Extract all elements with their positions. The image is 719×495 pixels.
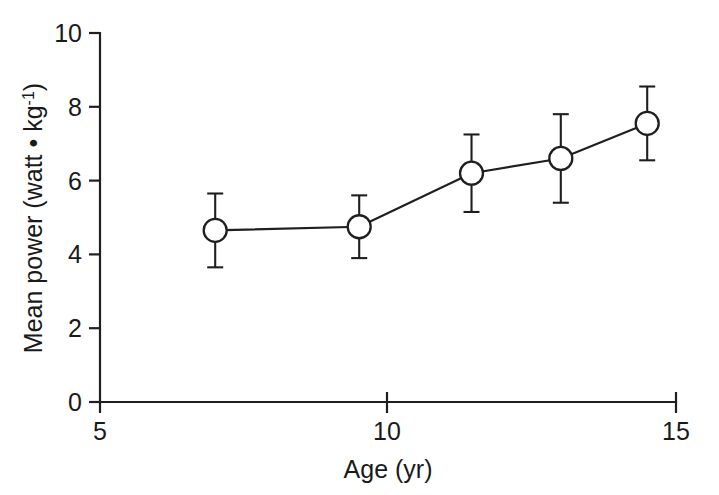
data-point-3[interactable] bbox=[460, 134, 483, 211]
y-axis-title-tail: ) bbox=[19, 83, 47, 91]
data-point-2[interactable] bbox=[348, 195, 371, 258]
y-axis-ticks bbox=[89, 33, 100, 402]
y-axis-title-superscript: -1 bbox=[20, 91, 37, 105]
marker-2[interactable] bbox=[348, 215, 371, 238]
data-point-4[interactable] bbox=[549, 114, 572, 203]
y-tick-label-6: 6 bbox=[68, 167, 82, 195]
x-tick-label-5: 5 bbox=[93, 417, 107, 445]
y-tick-label-2: 2 bbox=[68, 314, 82, 342]
y-axis-title: Mean power (watt • kg-1) bbox=[19, 83, 47, 353]
x-tick-label-15: 15 bbox=[662, 417, 690, 445]
data-point-5[interactable] bbox=[636, 87, 659, 161]
chart-plot-area: 10 8 6 4 2 0 5 10 15 Age (yr) Mean power… bbox=[0, 0, 719, 495]
data-point-1[interactable] bbox=[204, 194, 227, 268]
data-point-group bbox=[204, 87, 659, 268]
x-tick-label-10: 10 bbox=[373, 417, 401, 445]
chart-figure: 10 8 6 4 2 0 5 10 15 Age (yr) Mean power… bbox=[0, 0, 719, 495]
marker-1[interactable] bbox=[204, 219, 227, 242]
x-tick-labels: 5 10 15 bbox=[93, 417, 690, 445]
y-tick-label-4: 4 bbox=[68, 240, 82, 268]
y-tick-label-0: 0 bbox=[68, 388, 82, 416]
svg-text:Mean power (watt • kg-1): Mean power (watt • kg-1) bbox=[19, 83, 47, 353]
marker-3[interactable] bbox=[460, 162, 483, 185]
marker-4[interactable] bbox=[549, 147, 572, 170]
y-axis-title-main: Mean power (watt • kg bbox=[19, 105, 47, 353]
x-axis-title: Age (yr) bbox=[344, 455, 433, 483]
series-line-mean-power bbox=[215, 123, 647, 230]
y-tick-label-8: 8 bbox=[68, 93, 82, 121]
marker-5[interactable] bbox=[636, 112, 659, 135]
y-tick-labels: 10 8 6 4 2 0 bbox=[54, 19, 82, 416]
y-tick-label-10: 10 bbox=[54, 19, 82, 47]
